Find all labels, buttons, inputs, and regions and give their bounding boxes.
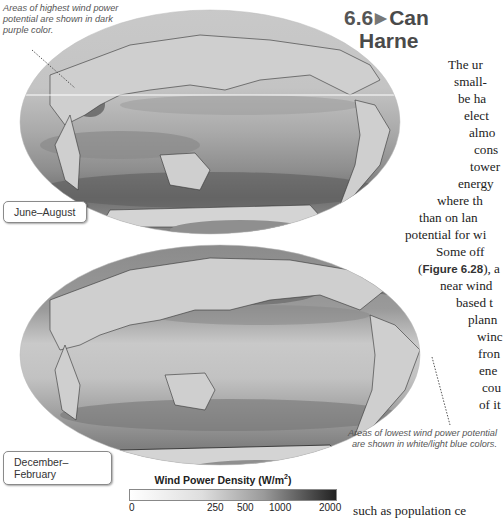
body-text-line: be ha	[458, 91, 486, 108]
legend-title: Wind Power Density (W/m2)	[109, 473, 337, 486]
legend-title-text: Wind Power Density (W/m	[155, 474, 284, 486]
body-text-line: of it	[479, 397, 501, 414]
body-text-line: plann	[468, 312, 497, 329]
legend-tick-label: 2000	[319, 502, 341, 513]
legend: Wind Power Density (W/m2) 02505001000200…	[129, 473, 337, 514]
body-text-line: energy	[458, 176, 494, 193]
body-text-line: cons	[474, 142, 498, 159]
season-label-june-august: June–August	[3, 201, 87, 223]
body-text-line: based t	[456, 295, 493, 312]
body-text-line: where th	[437, 193, 483, 210]
callout-leader-line-top	[30, 48, 80, 93]
legend-ticks: 025050010002000	[129, 502, 337, 514]
callout-leader-line-bottom	[428, 355, 458, 430]
body-text-line: than on lan	[419, 210, 478, 227]
legend-tick-label: 250	[207, 502, 224, 513]
body-text-line: elect	[464, 108, 489, 125]
body-text-line: Some off	[436, 244, 484, 261]
play-arrow-icon: ▶	[375, 9, 387, 26]
legend-tick-label: 0	[129, 502, 135, 513]
body-text-line: fron	[478, 346, 500, 363]
body-text-line: ene	[479, 363, 497, 380]
body-text-line: The ur	[448, 57, 483, 74]
callout-highest-wind: Areas of highest wind power potential ar…	[3, 3, 123, 36]
section-heading-line2: Harne	[359, 29, 419, 52]
body-text-line: winc	[477, 329, 503, 346]
figure-reference-link[interactable]: Figure 6.28	[422, 263, 483, 275]
body-text-line: such as population ce	[353, 503, 466, 518]
legend-title-end: )	[288, 474, 292, 486]
body-text-line: (Figure 6.28), a	[418, 261, 500, 278]
body-text-line: near wind	[440, 278, 492, 295]
legend-tick-label: 500	[237, 502, 254, 513]
heading-text-line1: Can	[389, 6, 429, 29]
legend-tick-label: 1000	[269, 502, 291, 513]
body-text-line: small-	[454, 74, 487, 91]
legend-color-bar	[129, 489, 337, 501]
body-text-line: cou	[482, 380, 501, 397]
section-heading-line1: 6.6▶Can	[344, 6, 429, 31]
body-text-line: almo	[469, 125, 495, 142]
body-text-line: potential for wi	[405, 227, 486, 244]
callout-lowest-wind: Areas of lowest wind power potential are…	[347, 428, 497, 450]
season-label-december-february: December–February	[3, 451, 112, 485]
section-number: 6.6	[344, 6, 373, 29]
body-text-line: tower	[470, 159, 500, 176]
